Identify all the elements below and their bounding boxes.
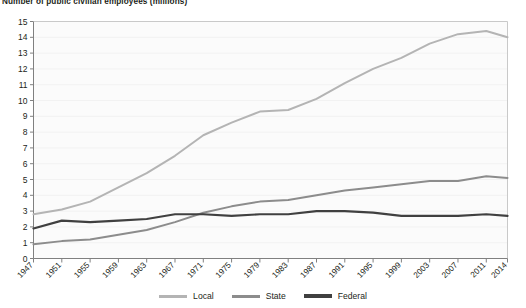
y-axis-tick-label: 15 <box>18 17 28 27</box>
y-axis-tick-label: 4 <box>23 190 28 200</box>
x-axis-tick-label: 1947 <box>16 260 36 280</box>
y-axis-tick-label: 9 <box>23 111 28 121</box>
x-axis-tick-label: 1983 <box>270 260 290 280</box>
legend-label-federal: Federal <box>338 292 367 301</box>
y-axis-tick-label: 6 <box>23 159 28 169</box>
x-axis-tick-label: 1975 <box>214 260 234 280</box>
x-axis-tick-label: 1959 <box>101 260 121 280</box>
y-axis-tick-label: 14 <box>18 32 28 42</box>
y-axis-tick-label: 5 <box>23 175 28 185</box>
x-axis-tick-label: 1987 <box>299 260 319 280</box>
y-axis-tick-label: 3 <box>23 206 28 216</box>
y-axis-tick-label: 1 <box>23 238 28 248</box>
x-axis-tick-label: 1967 <box>157 260 177 280</box>
line-chart-svg: 0123456789101112131415194719511955195919… <box>0 0 526 308</box>
legend-item-federal[interactable]: Federal <box>304 292 367 301</box>
legend-label-local: Local <box>193 292 214 301</box>
plot-background <box>34 22 508 259</box>
y-axis-tick-label: 2 <box>23 222 28 232</box>
legend-label-state: State <box>266 292 286 301</box>
chart-container: Number of public civilian employees (mil… <box>0 0 526 308</box>
x-axis-tick-label: 1971 <box>185 260 205 280</box>
x-axis-tick-label: 2003 <box>412 260 432 280</box>
plot-area: 0123456789101112131415194719511955195919… <box>0 0 526 308</box>
x-axis-tick-label: 1963 <box>129 260 149 280</box>
legend-swatch-federal-icon <box>304 294 332 298</box>
y-axis-tick-label: 13 <box>18 48 28 58</box>
x-axis-tick-label: 1979 <box>242 260 262 280</box>
legend-swatch-local-icon <box>159 295 187 298</box>
y-axis-tick-label: 10 <box>18 96 28 106</box>
legend-item-local[interactable]: Local <box>159 292 214 301</box>
chart-legend: Local State Federal <box>0 286 526 306</box>
x-axis-tick-label: 1999 <box>384 260 404 280</box>
x-axis-tick-label: 2011 <box>469 260 488 279</box>
y-axis-tick-label: 11 <box>19 80 28 90</box>
legend-item-state[interactable]: State <box>232 292 286 301</box>
y-axis-tick-label: 7 <box>23 143 28 153</box>
x-axis-tick-label: 1955 <box>72 260 92 280</box>
x-axis-tick-label: 1951 <box>44 260 64 280</box>
y-axis-tick-label: 8 <box>23 127 28 137</box>
x-axis-tick-label: 2014 <box>490 260 510 280</box>
x-axis-tick-label: 1991 <box>327 260 347 280</box>
x-axis-tick-label: 2007 <box>440 260 460 280</box>
y-axis-tick-label: 12 <box>18 64 28 74</box>
legend-swatch-state-icon <box>232 295 260 298</box>
x-axis-tick-label: 1995 <box>355 260 375 280</box>
